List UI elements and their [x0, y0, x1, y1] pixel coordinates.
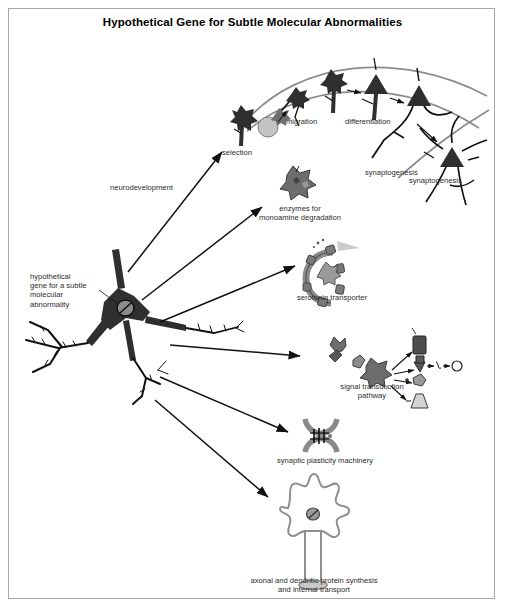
soma-transport-icon	[280, 474, 349, 590]
arrow-axonal	[155, 400, 268, 497]
stage-label-synaptogenesis-2: synaptogenesis	[409, 176, 462, 185]
target-label-serotonin-transporter: serotonin transporter	[278, 293, 386, 302]
arrow-plasticity	[160, 377, 288, 432]
source-neuron-label: hypothetical gene for a subtle molecular…	[30, 272, 106, 309]
arrow-signal	[170, 345, 300, 356]
arrow-serotonin	[160, 266, 295, 322]
gene-nucleus-icon	[117, 300, 134, 316]
branch-label-neurodevelopment: neurodevelopment	[110, 183, 173, 192]
arrow-enzymes	[142, 207, 262, 300]
target-label-signal-transduction: signal transduction pathway	[325, 382, 419, 400]
target-label-axonal-transport: axonal and dendritic protein synthesis a…	[214, 576, 414, 594]
stage-label-migration: migration	[286, 117, 317, 126]
migrating-neuron-icon	[258, 87, 310, 137]
synapse-cleft-icon	[305, 419, 337, 452]
figure-canvas: Hypothetical Gene for Subtle Molecular A…	[0, 0, 505, 609]
target-label-synaptic-plasticity: synaptic plasticity machinery	[261, 456, 389, 465]
stage-label-selection: selection	[222, 148, 252, 157]
synapse-forming-neuron-icon	[372, 68, 452, 158]
enzyme-blob-icon	[280, 166, 316, 200]
arrow-neurodevelopment	[128, 152, 222, 272]
mature-neuron-icon	[420, 116, 487, 205]
target-label-enzymes: enzymes for monoamine degradation	[247, 204, 353, 222]
stage-label-differentiation: differentiation	[345, 117, 390, 126]
